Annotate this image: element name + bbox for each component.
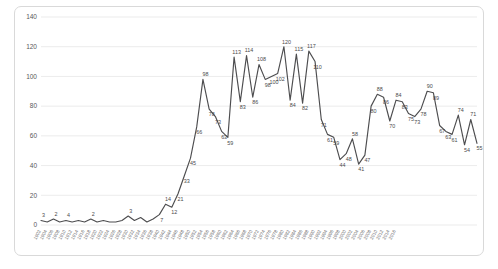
data-point-label: 7 — [160, 217, 163, 223]
data-point-label: 83 — [240, 104, 246, 110]
y-axis-tick-label: 120 — [26, 43, 37, 50]
y-axis-tick-label: 60 — [30, 132, 38, 139]
x-axis-tick-label: 2016 — [388, 229, 397, 241]
data-point-label: 63 — [445, 134, 451, 140]
data-point-label: 80 — [371, 108, 377, 114]
data-point-label: 70 — [389, 123, 395, 129]
chart-card: 0204060801001201401902190419061908191019… — [14, 6, 484, 256]
data-point-label: 110 — [313, 64, 322, 70]
data-point-label: 41 — [358, 166, 364, 172]
data-point-label: 59 — [227, 140, 233, 146]
data-point-label: 2 — [92, 211, 95, 217]
y-axis-tick-label: 40 — [30, 162, 38, 169]
data-point-label: 74 — [458, 107, 464, 113]
data-point-label: 55 — [477, 145, 483, 151]
data-point-label: 2 — [54, 211, 57, 217]
data-point-label: 58 — [352, 131, 358, 137]
data-point-label: 89 — [433, 95, 439, 101]
data-point-label: 48 — [346, 156, 352, 162]
data-point-label: 115 — [295, 46, 304, 52]
data-series-line — [41, 47, 477, 222]
data-point-label: 71 — [470, 111, 476, 117]
data-point-label: 78 — [420, 111, 426, 117]
data-point-label: 117 — [307, 43, 316, 49]
data-point-label: 71 — [321, 122, 327, 128]
data-point-label: 88 — [377, 86, 383, 92]
data-point-label: 33 — [184, 178, 190, 184]
data-point-label: 84 — [290, 102, 296, 108]
data-point-label: 47 — [364, 157, 370, 163]
data-point-label: 98 — [202, 71, 208, 77]
data-point-label: 3 — [129, 208, 132, 214]
data-point-label: 73 — [414, 119, 420, 125]
data-point-label: 61 — [452, 137, 458, 143]
data-point-label: 54 — [464, 147, 470, 153]
y-axis-tick-label: 140 — [26, 13, 37, 20]
data-point-label: 12 — [171, 209, 177, 215]
data-point-label: 66 — [196, 129, 202, 135]
line-chart-svg: 0204060801001201401902190419061908191019… — [15, 7, 485, 257]
data-point-label: 86 — [383, 99, 389, 105]
data-point-label: 84 — [396, 92, 402, 98]
data-point-label: 82 — [302, 105, 308, 111]
data-point-label: 114 — [245, 47, 254, 53]
data-point-label: 63 — [221, 134, 227, 140]
data-point-label: 90 — [427, 83, 433, 89]
data-point-label: 78 — [209, 111, 215, 117]
data-point-label: 67 — [439, 128, 445, 134]
y-axis-tick-label: 0 — [33, 221, 37, 228]
data-point-label: 120 — [282, 39, 291, 45]
data-point-label: 75 — [408, 116, 414, 122]
data-point-label: 44 — [339, 162, 345, 168]
y-axis-tick-label: 80 — [30, 102, 38, 109]
data-point-label: 21 — [178, 196, 184, 202]
data-point-label: 45 — [190, 160, 196, 166]
data-point-label: 108 — [257, 56, 266, 62]
data-point-label: 14 — [165, 196, 171, 202]
data-point-label: 102 — [276, 76, 285, 82]
data-point-label: 83 — [402, 104, 408, 110]
data-point-label: 4 — [67, 212, 70, 218]
data-point-label: 86 — [252, 99, 258, 105]
data-point-label: 61 — [327, 137, 333, 143]
y-axis-tick-label: 20 — [30, 192, 38, 199]
data-point-label: 3 — [42, 212, 45, 218]
data-point-label: 59 — [333, 140, 339, 146]
data-point-label: 73 — [215, 119, 221, 125]
y-axis-tick-label: 100 — [26, 73, 37, 80]
data-point-label: 113 — [232, 49, 241, 55]
chart-plot-area: 0204060801001201401902190419061908191019… — [15, 7, 485, 257]
